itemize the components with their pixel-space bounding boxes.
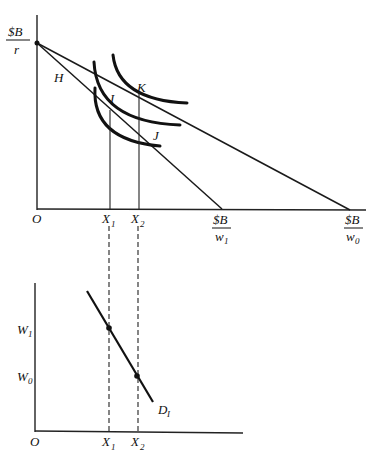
demand-point-w1	[106, 325, 112, 331]
bottom-origin-label: O	[30, 434, 40, 449]
svg-text:$B: $B	[213, 212, 228, 227]
budget-line-w0	[37, 43, 350, 210]
svg-text:1: 1	[224, 236, 229, 246]
svg-text:X: X	[130, 434, 140, 449]
labor-supply-diagram: $B r H I J K O X 1 X 2 $B w 1 $B w 0	[0, 0, 382, 467]
bottom-x1-label: X 1	[101, 434, 116, 452]
bottom-panel: W 1 W 0 D I O X 1 X 2	[17, 283, 243, 452]
x-intercept-w1-label: $B w 1	[212, 212, 231, 246]
y-intercept-point	[35, 41, 40, 46]
point-label-K: K	[136, 80, 147, 95]
svg-text:X: X	[130, 211, 140, 226]
x-intercept-w0-label: $B w 0	[344, 212, 363, 246]
svg-text:0: 0	[28, 376, 33, 386]
svg-text:w: w	[346, 229, 355, 244]
budget-line-w1	[37, 43, 222, 209]
svg-text:I: I	[166, 409, 171, 419]
svg-text:0: 0	[355, 236, 360, 246]
svg-text:w: w	[215, 229, 224, 244]
svg-text:2: 2	[140, 219, 145, 229]
point-label-I: I	[109, 91, 115, 106]
demand-label: D I	[157, 402, 171, 419]
y-intercept-denominator: r	[14, 42, 20, 57]
top-x1-label: X 1	[101, 211, 116, 229]
bottom-x2-label: X 2	[130, 434, 145, 452]
svg-text:X: X	[101, 211, 111, 226]
svg-text:2: 2	[140, 442, 145, 452]
svg-text:1: 1	[111, 219, 116, 229]
svg-text:1: 1	[28, 329, 33, 339]
bottom-x-axis	[35, 431, 243, 433]
y-intercept-numerator: $B	[8, 24, 23, 39]
svg-text:X: X	[101, 434, 111, 449]
demand-point-w0	[134, 373, 140, 379]
indifference-curve-highest-K	[113, 55, 187, 103]
point-label-H: H	[53, 70, 64, 85]
svg-text:$B: $B	[345, 212, 360, 227]
top-x-axis	[37, 209, 366, 210]
w0-label: W 0	[17, 369, 33, 386]
top-panel: $B r H I J K O X 1 X 2 $B w 1 $B w 0	[6, 15, 366, 246]
svg-text:1: 1	[111, 442, 116, 452]
demand-curve	[87, 291, 153, 402]
top-origin-label: O	[32, 211, 42, 226]
point-label-J: J	[153, 128, 160, 143]
w1-label: W 1	[17, 322, 33, 339]
